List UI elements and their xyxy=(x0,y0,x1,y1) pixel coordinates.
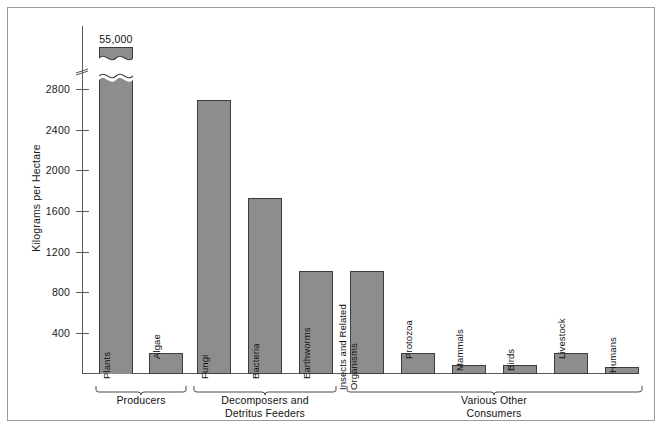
bar-plants xyxy=(99,78,133,374)
group-label-decomposers-line1: Decomposers and xyxy=(190,394,340,407)
y-tick-2000 xyxy=(76,170,89,171)
y-tick-400 xyxy=(76,333,89,334)
y-tick-1600 xyxy=(76,211,89,212)
y-tick-2800 xyxy=(76,89,89,90)
bar-label-mammals: Mammals xyxy=(454,329,465,371)
bar-break-lower-icon xyxy=(99,70,133,84)
bar-fungi xyxy=(197,100,231,374)
bar-label-protozoa: Protozoa xyxy=(403,320,414,359)
bar-break-upper-icon xyxy=(99,54,133,68)
group-label-decomposers-line2: Detritus Feeders xyxy=(190,407,340,420)
y-tick-label-1200: 1200 xyxy=(26,246,70,258)
group-bracket-producers xyxy=(95,381,187,390)
y-tick-label-2400: 2400 xyxy=(26,124,70,136)
bar-label-birds: Birds xyxy=(505,349,516,371)
group-bracket-consumers xyxy=(346,381,643,390)
bar-label-livestock: Livestock xyxy=(556,318,567,359)
group-label-decomposers: Decomposers and Detritus Feeders xyxy=(190,394,340,420)
group-label-consumers: Various Other Consumers xyxy=(419,394,569,420)
y-tick-label-2800: 2800 xyxy=(26,83,70,95)
group-label-producers: Producers xyxy=(96,394,186,407)
bar-label-fungi: Fungi xyxy=(199,355,210,379)
y-tick-1200 xyxy=(76,252,89,253)
group-bracket-decomposers xyxy=(193,381,337,390)
bar-label-plants: Plants xyxy=(101,352,112,379)
y-tick-label-400: 400 xyxy=(26,327,70,339)
bar-label-algae: Algae xyxy=(151,334,162,359)
bar-label-humans: Humans xyxy=(607,337,618,373)
y-tick-800 xyxy=(76,292,89,293)
group-label-consumers-line1: Various Other xyxy=(419,394,569,407)
bar-label-earthworms: Earthworms xyxy=(301,327,312,379)
figure-root: Kilograms per Hectare 2800 2400 2000 160… xyxy=(0,0,664,431)
y-tick-label-2000: 2000 xyxy=(26,164,70,176)
bar-value-plants: 55,000 xyxy=(78,33,154,45)
chart-plot-area: Kilograms per Hectare 2800 2400 2000 160… xyxy=(0,0,664,431)
y-tick-2400 xyxy=(76,130,89,131)
y-axis-break-icon xyxy=(75,64,90,80)
bar-label-insects: Insects and Related Organisms xyxy=(337,300,359,390)
bar-label-bacteria: Bacteria xyxy=(250,343,261,379)
y-tick-label-800: 800 xyxy=(26,286,70,298)
y-tick-label-1600: 1600 xyxy=(26,205,70,217)
group-label-consumers-line2: Consumers xyxy=(419,407,569,420)
